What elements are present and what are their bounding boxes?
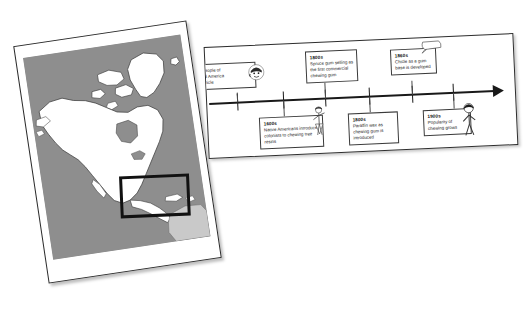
timeline-event-text: e People of ntral America e chicle [204, 66, 253, 87]
modern-person-icon [458, 102, 480, 137]
ancient-person-icon [247, 63, 265, 82]
timeline-event-box[interactable]: 1800s Spruce gum selling as the first co… [305, 49, 358, 84]
scene-canvas: e People of ntral America e chicle 1600s… [0, 0, 523, 315]
timeline-event-box[interactable]: 1800s Paraffin wax as chewing gum is int… [348, 111, 399, 146]
timeline-event-text: Chicle as a gum base is developed [395, 58, 433, 72]
colonist-person-icon [310, 106, 327, 137]
map-page[interactable] [13, 20, 222, 283]
map-image [23, 34, 210, 259]
speech-bubble-icon [417, 39, 444, 54]
timeline-event-text: Spruce gum selling as the first commerci… [310, 60, 354, 80]
north-america-map-svg [23, 34, 210, 259]
timeline-page[interactable]: e People of ntral America e chicle 1600s… [204, 33, 519, 159]
timeline-event-text: Paraffin wax as chewing gum is introduce… [353, 122, 395, 142]
map-selection-rectangle[interactable] [119, 173, 191, 218]
timeline-diagram: e People of ntral America e chicle 1600s… [205, 34, 518, 158]
timeline-axis-arrow-icon [493, 84, 505, 96]
